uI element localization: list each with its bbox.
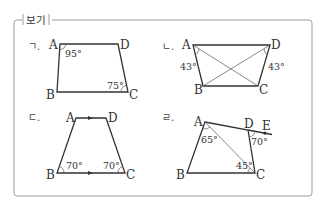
figure-marker: ㄱ. — [28, 41, 40, 52]
vertex-a: A — [181, 38, 191, 52]
angle-label-right: 43° — [268, 61, 285, 72]
vertex-d: D — [108, 111, 118, 125]
angle-label-c: 70° — [103, 160, 120, 171]
vertex-a: A — [193, 115, 203, 129]
angle-label-c: 45° — [236, 160, 253, 171]
vertex-b: B — [176, 168, 185, 182]
figure-marker: ㄹ. — [162, 112, 174, 123]
angle-label-d: 70° — [251, 136, 268, 147]
figure-giyeok: ㄱ. A D B C 95° 75° — [28, 38, 138, 102]
figure-marker: ㄴ. — [162, 41, 174, 52]
parallel-arrow-bc — [88, 171, 93, 175]
vertex-c: C — [256, 168, 265, 182]
figure-nieun: ㄴ. A D B C 43° 43° — [162, 38, 285, 97]
vertex-d: D — [271, 38, 281, 52]
vertex-b: B — [194, 83, 203, 97]
angle-label-left: 43° — [180, 61, 197, 72]
figure-marker: ㄷ. — [28, 112, 40, 123]
vertex-c: C — [259, 83, 268, 97]
figure-digeut: ㄷ. A D B C 70° 70° — [28, 111, 135, 182]
vertex-b: B — [46, 168, 55, 182]
angle-arc-right — [264, 49, 267, 54]
angle-label-a: 95° — [65, 48, 82, 59]
angle-label-c: 75° — [107, 80, 124, 91]
example-box-title: 보기 — [26, 14, 46, 26]
vertex-c: C — [129, 88, 138, 102]
vertex-e: E — [262, 119, 271, 133]
angle-label-a: 65° — [201, 134, 218, 145]
vertex-b: B — [46, 88, 55, 102]
vertex-a: A — [65, 111, 75, 125]
figure-rieul: ㄹ. A D E B C 65° 45° 70° — [162, 112, 272, 182]
diagonal-ac — [193, 45, 258, 86]
vertex-d: D — [244, 117, 254, 131]
vertex-a: A — [48, 38, 58, 52]
vertex-c: C — [126, 168, 135, 182]
example-box-canvas: 보기 ㄱ. A D B C 95° 75° ㄴ. A D B C 43° 43°… — [0, 0, 320, 204]
angle-label-b: 70° — [66, 160, 83, 171]
angle-arc-left — [197, 49, 200, 54]
parallel-arrow-ad — [88, 116, 93, 120]
angle-arc-b — [59, 166, 64, 173]
quadrilateral — [193, 45, 270, 86]
vertex-d: D — [120, 38, 130, 52]
